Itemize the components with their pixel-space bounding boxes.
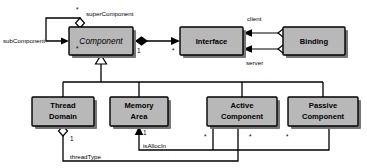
uml-class-diagram: Component Interface Binding Thread Domai…: [0, 0, 367, 168]
class-box-binding[interactable]: Binding: [283, 27, 348, 58]
diagram-canvas: Component Interface Binding Thread Domai…: [0, 0, 367, 168]
multiplicity-is-alloc-in: 1: [143, 129, 147, 136]
class-label-thread-domain-line1: Thread: [50, 101, 76, 110]
multiplicity-interface-side: *: [172, 47, 175, 54]
multiplicity-passive: *: [286, 133, 289, 140]
multiplicity-active-left: *: [204, 133, 207, 140]
role-label-thread-type: threadType: [70, 153, 102, 160]
class-label-passive-component-line1: Passive: [309, 101, 337, 110]
multiplicity-thread-type: 1: [70, 135, 74, 142]
class-label-memory-area-line1: Memory: [124, 101, 154, 110]
class-label-thread-domain-line2: Domain: [49, 112, 77, 121]
class-box-passive-component[interactable]: Passive Component: [288, 97, 361, 129]
class-label-active-component-line1: Active: [231, 101, 254, 110]
class-label-interface: Interface: [196, 37, 228, 46]
class-box-interface[interactable]: Interface: [180, 27, 246, 58]
class-box-memory-area[interactable]: Memory Area: [110, 97, 171, 129]
role-label-client: client: [247, 15, 262, 22]
class-label-binding: Binding: [300, 37, 329, 46]
edge-component-interface-composition: [133, 37, 180, 45]
class-label-active-component-line2: Component: [221, 112, 264, 121]
edge-binding-server-interface: [243, 45, 288, 53]
role-label-sub-component: subComponent: [3, 37, 45, 44]
class-box-thread-domain[interactable]: Thread Domain: [32, 97, 97, 129]
class-box-component[interactable]: Component: [69, 27, 136, 58]
class-label-passive-component-line2: Component: [302, 112, 345, 121]
class-label-memory-area-line2: Area: [131, 112, 149, 121]
multiplicity-component-side: 1: [137, 47, 141, 54]
multiplicity-active-right: *: [249, 133, 252, 140]
edge-generalization-tree: [63, 55, 323, 97]
role-label-super-component: superComponent: [86, 10, 134, 17]
class-label-component: Component: [79, 36, 123, 46]
multiplicity-super-component: *: [76, 6, 79, 13]
role-label-server: server: [246, 59, 263, 66]
edge-binding-client-interface: [243, 29, 288, 37]
role-label-is-alloc-in: isAllocIn: [143, 142, 167, 149]
class-box-active-component[interactable]: Active Component: [207, 97, 280, 129]
